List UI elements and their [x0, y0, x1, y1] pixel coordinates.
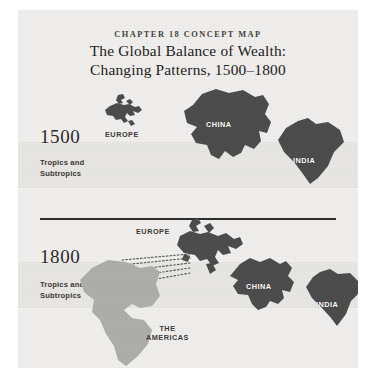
region-label-europe-1800: EUROPE — [136, 227, 170, 236]
tropics-label-1500: Tropics and Subtropics — [40, 158, 84, 179]
region-label-china-1800: CHINA — [246, 282, 272, 291]
year-label-1500-wrap: 1500 — [40, 126, 80, 148]
year-label-1500: 1500 — [40, 126, 80, 148]
region-label-india-1500: INDIA — [293, 156, 315, 165]
region-shape-china-1500 — [181, 87, 277, 171]
figure-title-line-2: Changing Patterns, 1500–1800 — [18, 61, 358, 80]
tropics-label-1500-line-1: Tropics and — [40, 158, 84, 169]
tropics-label-1500-line-2: Subtropics — [40, 169, 84, 180]
concept-map-figure: CHAPTER 18 CONCEPT MAP The Global Balanc… — [18, 10, 358, 368]
region-label-india-1800: INDIA — [316, 300, 338, 309]
region-shape-europe-1500 — [102, 94, 148, 130]
figure-title-line-1: The Global Balance of Wealth: — [18, 42, 358, 61]
region-label-europe-1500: EUROPE — [105, 130, 139, 139]
region-shape-india-1500 — [270, 118, 348, 188]
region-label-the-americas-1800-line-1: THE — [146, 324, 189, 333]
figure-title: The Global Balance of Wealth: Changing P… — [18, 42, 358, 79]
region-label-the-americas-1800: THE AMERICAS — [146, 324, 189, 342]
region-label-china-1500: CHINA — [206, 120, 232, 129]
figure-eyebrow: CHAPTER 18 CONCEPT MAP — [18, 30, 358, 39]
panel-1800: 1800 Tropics and Subtropics EUROPE — [18, 210, 358, 368]
panel-1500: 1500 Tropics and Subtropics EUROPE — [18, 86, 358, 206]
region-shape-the-americas-1800 — [74, 254, 186, 368]
region-label-the-americas-1800-line-2: AMERICAS — [146, 333, 189, 342]
